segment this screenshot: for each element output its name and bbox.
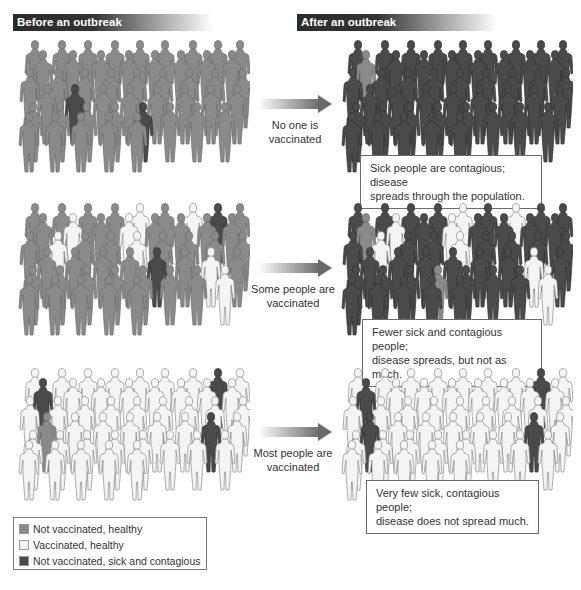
after-outbreak-header: After an outbreak — [297, 14, 497, 31]
swatch-icon — [19, 540, 29, 550]
swatch-icon — [19, 556, 29, 566]
swatch-icon — [19, 524, 29, 534]
arrow-label-row-2: Some people are vaccinated — [233, 282, 353, 310]
arrow-icon — [258, 259, 332, 277]
crowd-before-row-3 — [15, 368, 250, 508]
arrow-label-row-1: No one is vaccinated — [235, 118, 355, 146]
legend-item-vaccinated-healthy: Vaccinated, healthy — [19, 537, 201, 553]
crowd-before-row-2 — [15, 203, 250, 343]
legend-item-unvaccinated-healthy: Not vaccinated, healthy — [19, 521, 201, 537]
arrow-icon — [258, 95, 332, 113]
callout-row-3: Very few sick, contagious people; diseas… — [366, 480, 539, 534]
arrow-label-row-3: Most people are vaccinated — [233, 446, 353, 474]
legend-item-sick-contagious: Not vaccinated, sick and contagious — [19, 553, 201, 569]
legend: Not vaccinated, healthy Vaccinated, heal… — [13, 517, 207, 570]
crowd-before-row-1 — [15, 40, 250, 180]
arrow-icon — [258, 423, 332, 441]
callout-row-1: Sick people are contagious; disease spre… — [360, 155, 542, 209]
before-outbreak-header: Before an outbreak — [13, 14, 213, 31]
